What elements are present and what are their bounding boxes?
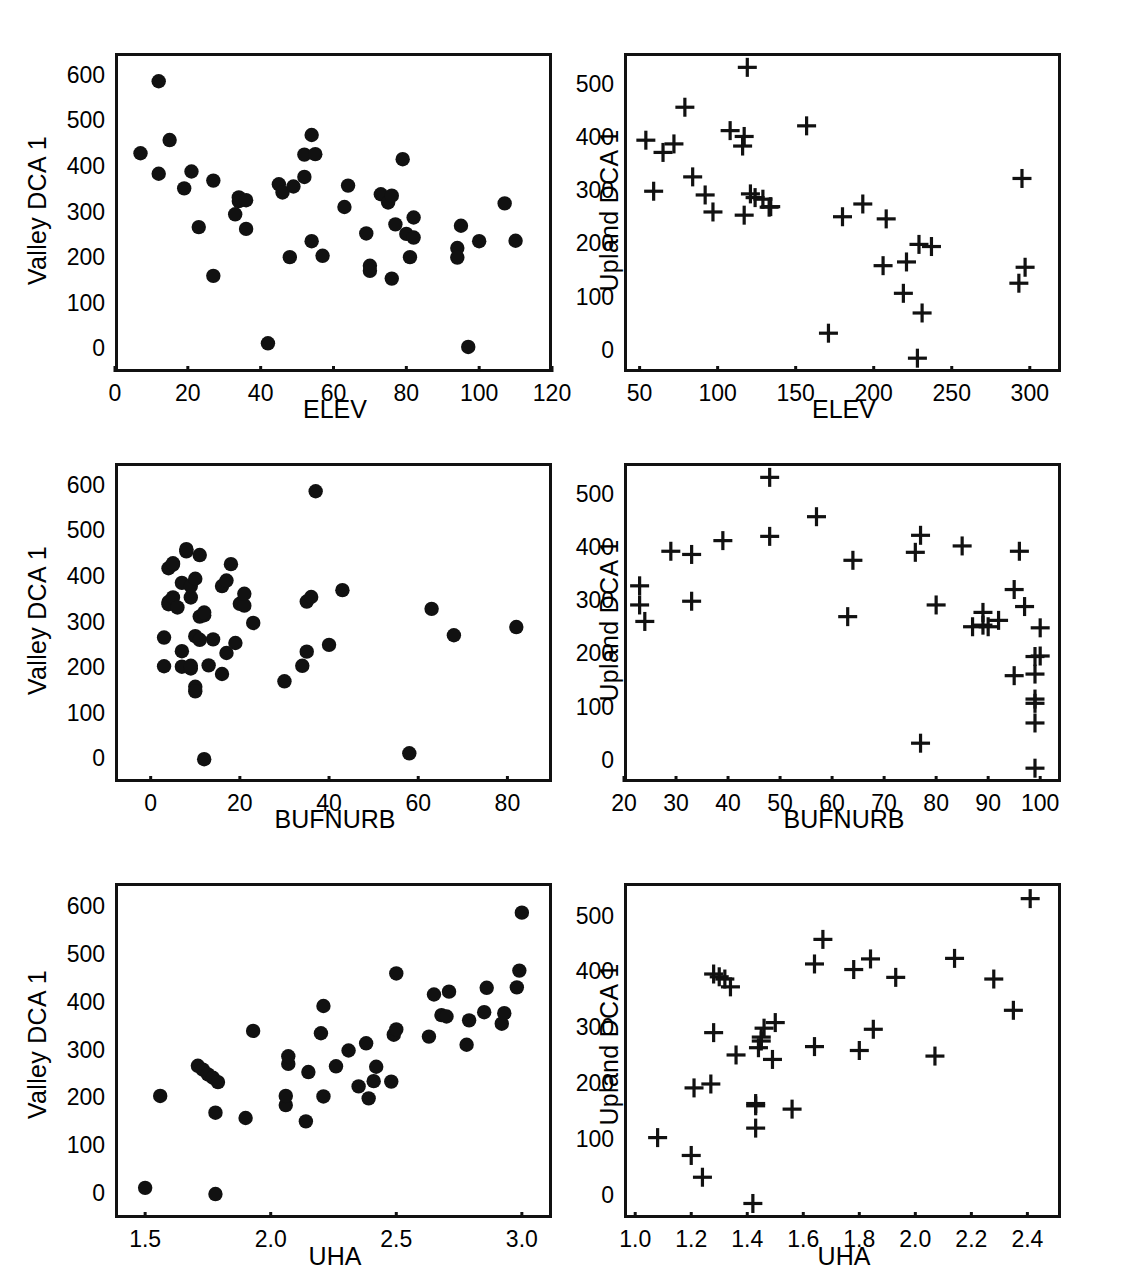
data-point xyxy=(215,667,229,681)
data-point xyxy=(984,970,1003,989)
data-point xyxy=(1025,665,1044,684)
data-point xyxy=(351,1079,365,1093)
data-point xyxy=(281,1049,295,1063)
data-point xyxy=(925,1047,944,1066)
data-point xyxy=(630,576,649,595)
data-point xyxy=(138,1181,152,1195)
panel-a-xtick: 100 xyxy=(439,380,519,407)
data-point xyxy=(385,271,399,285)
panel-c-plot-area xyxy=(115,463,552,782)
data-point xyxy=(300,644,314,658)
data-point xyxy=(913,303,932,322)
data-point xyxy=(385,188,399,202)
data-point xyxy=(359,1036,373,1050)
data-point xyxy=(206,632,220,646)
data-point xyxy=(805,1037,824,1056)
data-point xyxy=(1010,542,1029,561)
data-point xyxy=(630,595,649,614)
data-point xyxy=(462,1013,476,1027)
data-point xyxy=(341,1043,355,1057)
data-point xyxy=(953,536,972,555)
data-point xyxy=(447,628,461,642)
data-point xyxy=(304,590,318,604)
data-point xyxy=(635,612,654,631)
data-point xyxy=(850,1041,869,1060)
panel-b-xtick: 300 xyxy=(990,380,1070,407)
data-point xyxy=(361,1091,375,1105)
data-point xyxy=(329,1059,343,1073)
data-point xyxy=(1005,666,1024,685)
data-point xyxy=(682,545,701,564)
data-point xyxy=(188,572,202,586)
data-point xyxy=(704,1023,723,1042)
data-point xyxy=(316,999,330,1013)
panel-f-xtick: 2.4 xyxy=(987,1226,1067,1253)
panel-d-xtick: 100 xyxy=(1000,790,1080,817)
data-point xyxy=(406,210,420,224)
data-point xyxy=(844,960,863,979)
data-point xyxy=(304,234,318,248)
data-point xyxy=(184,164,198,178)
panel-c-data-points xyxy=(157,484,524,766)
data-point xyxy=(239,222,253,236)
data-point xyxy=(366,1074,380,1088)
data-point xyxy=(783,1100,802,1119)
data-point xyxy=(461,340,475,354)
data-point xyxy=(1025,759,1044,778)
data-point xyxy=(703,202,722,221)
panel-e: Valley DCA 1 E UHA 1.52.02.53.0010020030… xyxy=(0,830,564,1288)
data-point xyxy=(193,633,207,647)
panel-f-ytick: 400 xyxy=(532,958,614,985)
data-point xyxy=(179,542,193,556)
data-point xyxy=(509,620,523,634)
data-point xyxy=(648,1128,667,1147)
data-point xyxy=(1004,1001,1023,1020)
data-point xyxy=(286,179,300,193)
panel-d-ytick: 200 xyxy=(532,640,614,667)
data-point xyxy=(927,595,946,614)
figure-six-panel-scatter-grid: Valley DCA 1 A ELEV 02040608010012001002… xyxy=(0,0,1128,1288)
panel-a-ytick: 0 xyxy=(23,335,105,362)
panel-a-xtick: 20 xyxy=(148,380,228,407)
data-point xyxy=(388,217,402,231)
panel-b-ytick: 500 xyxy=(532,71,614,98)
data-point xyxy=(911,526,930,545)
panel-b-ytick: 0 xyxy=(532,337,614,364)
data-point xyxy=(886,968,905,987)
data-point xyxy=(188,684,202,698)
data-point xyxy=(239,193,253,207)
data-point xyxy=(874,256,893,275)
data-point xyxy=(1021,889,1040,908)
data-point xyxy=(1005,580,1024,599)
data-point xyxy=(359,226,373,240)
data-point xyxy=(219,573,233,587)
data-point xyxy=(843,551,862,570)
data-point xyxy=(427,987,441,1001)
panel-e-ytick: 100 xyxy=(23,1132,105,1159)
panel-e-plot-area xyxy=(115,883,552,1218)
panel-e-ytick: 0 xyxy=(23,1180,105,1207)
panel-d-ytick: 0 xyxy=(532,747,614,774)
panel-e-ytick: 200 xyxy=(23,1084,105,1111)
data-point xyxy=(746,1094,765,1113)
data-point xyxy=(480,981,494,995)
panel-a-ytick: 100 xyxy=(23,290,105,317)
data-point xyxy=(497,1006,511,1020)
data-point xyxy=(664,134,683,153)
data-point xyxy=(644,182,663,201)
data-point xyxy=(277,674,291,688)
data-point xyxy=(211,1075,225,1089)
data-point xyxy=(208,1106,222,1120)
data-point xyxy=(335,583,349,597)
data-point xyxy=(908,349,927,368)
panel-e-xtick: 2.0 xyxy=(231,1226,311,1253)
data-point xyxy=(308,147,322,161)
data-point xyxy=(459,1038,473,1052)
data-point xyxy=(515,905,529,919)
panel-f-ytick: 500 xyxy=(532,903,614,930)
panel-d-ytick: 300 xyxy=(532,587,614,614)
panel-d-ytick: 100 xyxy=(532,694,614,721)
panel-b-xtick: 200 xyxy=(834,380,914,407)
data-point xyxy=(864,1020,883,1039)
panel-f-data-points xyxy=(648,889,1040,1213)
